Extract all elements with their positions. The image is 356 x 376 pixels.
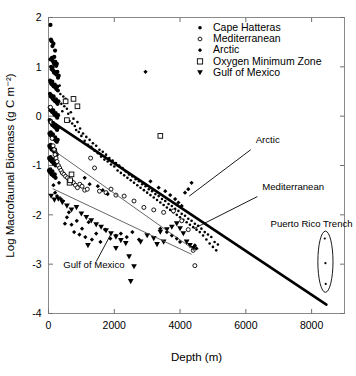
x-tick-label: 8000 (300, 319, 324, 331)
point-cape-hatteras (205, 238, 208, 241)
point-arctic (87, 182, 91, 186)
point-arctic (198, 48, 202, 52)
point-mediterranean (193, 264, 197, 268)
annotation-puerto-rico-trench: Puerto Rico Trench (271, 218, 353, 229)
point-cape-hatteras (179, 216, 182, 219)
point-mediterranean (180, 219, 184, 223)
point-mediterranean (152, 208, 156, 212)
point-cape-hatteras (79, 127, 82, 130)
point-gulf-of-mexico (113, 246, 119, 251)
y-tick-label: -2 (32, 209, 41, 221)
point-mediterranean (122, 194, 126, 198)
point-gulf-of-mexico (85, 243, 91, 248)
point-cape-hatteras (200, 227, 203, 230)
point-arctic (77, 232, 81, 236)
point-cape-hatteras (159, 201, 162, 204)
point-cape-hatteras (129, 179, 132, 182)
point-cape-hatteras (80, 135, 83, 138)
point-cape-hatteras (156, 199, 159, 202)
point-arctic (157, 186, 161, 190)
point-arctic (51, 183, 55, 187)
point-cape-hatteras (171, 205, 174, 208)
point-gulf-of-mexico (169, 225, 175, 230)
point-arctic (69, 223, 73, 227)
point-cape-hatteras (82, 132, 85, 135)
legend-label: Oxygen Minimum Zone (213, 55, 322, 67)
point-mediterranean (142, 205, 146, 209)
point-cape-hatteras (62, 95, 65, 98)
point-cape-hatteras (187, 217, 190, 220)
point-mediterranean (55, 160, 59, 164)
point-arctic (57, 181, 61, 185)
point-mediterranean (51, 144, 55, 148)
point-cape-hatteras (57, 74, 61, 78)
point-cape-hatteras (149, 194, 152, 197)
point-cape-hatteras (203, 231, 206, 234)
point-arctic (189, 181, 193, 185)
point-cape-hatteras (56, 138, 60, 142)
y-tick-label: 0 (36, 110, 42, 122)
point-cape-hatteras (161, 198, 164, 201)
leader-line-gulf-of-mexico (96, 232, 112, 262)
point-cape-hatteras (208, 242, 211, 245)
point-cape-hatteras (164, 200, 167, 203)
point-cape-hatteras (116, 169, 119, 172)
point-cape-hatteras (72, 117, 75, 120)
point-cape-hatteras (67, 112, 70, 115)
point-arctic (72, 230, 76, 234)
point-gulf-of-mexico (128, 279, 134, 284)
point-cape-hatteras (51, 42, 55, 46)
point-oxygen-minimum-zone (158, 134, 163, 139)
x-tick-label: 2000 (103, 319, 127, 331)
point-cape-hatteras (101, 150, 104, 153)
point-arctic (75, 219, 79, 223)
y-axis-title: Log Macrofaunal Biomass (g C m⁻²) (4, 73, 16, 257)
point-cape-hatteras (70, 111, 73, 114)
point-oxygen-minimum-zone (75, 104, 80, 109)
point-gulf-of-mexico (103, 228, 109, 233)
point-cape-hatteras (126, 177, 129, 180)
scatter-chart: 02000400060008000210-1-2-3-4 ArcticMedit… (0, 0, 356, 376)
point-cape-hatteras (61, 110, 64, 113)
point-cape-hatteras (113, 165, 116, 168)
point-oxygen-minimum-zone (63, 99, 68, 104)
point-cape-hatteras (77, 131, 80, 134)
point-arctic (183, 191, 187, 195)
leader-line-mediterranean (194, 197, 257, 229)
point-cape-hatteras (162, 204, 165, 207)
figure-container: 02000400060008000210-1-2-3-4 ArcticMedit… (0, 0, 356, 376)
point-cape-hatteras (95, 144, 98, 147)
point-puerto-rico-trench (325, 283, 327, 285)
point-gulf-of-mexico (118, 238, 124, 243)
point-gulf-of-mexico (157, 230, 163, 235)
point-cape-hatteras (92, 142, 95, 145)
point-mediterranean (186, 228, 190, 232)
point-puerto-rico-trench (324, 262, 326, 264)
point-cape-hatteras (56, 88, 60, 92)
point-cape-hatteras (63, 105, 66, 108)
point-cape-hatteras (66, 107, 69, 110)
point-cape-hatteras (136, 184, 139, 187)
point-gulf-of-mexico (177, 226, 183, 231)
point-cape-hatteras (207, 233, 210, 236)
point-cape-hatteras (88, 139, 91, 142)
point-arctic (67, 210, 71, 214)
point-cape-hatteras (184, 215, 187, 218)
series-gulf-of-mexico (48, 194, 196, 284)
point-cape-hatteras (166, 206, 169, 209)
point-arctic (94, 231, 98, 235)
point-cape-hatteras (58, 84, 61, 87)
point-cape-hatteras (217, 243, 220, 246)
series-mediterranean (48, 105, 196, 267)
point-mediterranean (132, 199, 136, 203)
point-gulf-of-mexico (113, 235, 119, 240)
point-cape-hatteras (146, 191, 149, 194)
y-tick-label: -4 (32, 307, 41, 319)
point-mediterranean (198, 37, 202, 41)
point-gulf-of-mexico (180, 231, 186, 236)
point-oxygen-minimum-zone (65, 118, 70, 123)
point-cape-hatteras (105, 153, 108, 156)
point-gulf-of-mexico (98, 225, 104, 230)
point-cape-hatteras (189, 223, 192, 226)
point-arctic (125, 235, 129, 239)
